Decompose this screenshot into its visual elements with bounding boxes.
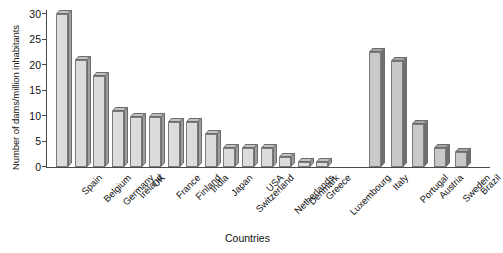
bar-netherlands <box>261 148 273 167</box>
bar-front-face <box>242 148 254 167</box>
bar-front-face <box>149 117 161 167</box>
bar-ireland <box>112 111 124 167</box>
bar-front-face <box>298 162 310 167</box>
bar-front-face <box>186 122 198 167</box>
bar-side-face <box>124 106 128 167</box>
bar-india <box>186 122 198 167</box>
y-tick-label: 20 <box>29 59 41 71</box>
y-tick-label: 25 <box>29 33 41 45</box>
bar-front-face <box>205 134 217 167</box>
bar-front-face <box>369 52 381 167</box>
plot-area: 051015202530 <box>46 10 490 168</box>
bar-side-face <box>87 55 91 167</box>
bar-side-face <box>424 119 428 167</box>
bar-front-face <box>112 111 124 167</box>
bar-front-face <box>75 60 87 167</box>
y-tick-label: 15 <box>29 84 41 96</box>
bar-finland <box>168 122 180 167</box>
bar-side-face <box>403 57 407 167</box>
bar-front-face <box>434 148 446 167</box>
bar-usa <box>242 148 254 167</box>
bar-belgium <box>75 60 87 167</box>
bars-layer <box>46 10 490 168</box>
bar-side-face <box>161 113 165 167</box>
bar-austria <box>412 124 424 167</box>
bar-side-face <box>105 72 109 167</box>
bar-germany <box>93 76 105 167</box>
bar-side-face <box>198 118 202 167</box>
bar-denmark <box>279 157 291 167</box>
x-axis-title: Countries <box>0 232 495 244</box>
x-label-japan: Japan <box>228 172 254 198</box>
bar-side-face <box>180 118 184 167</box>
bar-front-face <box>130 117 142 167</box>
y-tick-label: 5 <box>35 135 41 147</box>
bar-greece <box>298 162 310 167</box>
bar-spain <box>56 14 68 167</box>
bar-switzerland <box>223 148 235 167</box>
bar-front-face <box>455 152 467 167</box>
bar-front-face <box>93 76 105 167</box>
bar-france <box>149 117 161 167</box>
bar-front-face <box>412 124 424 167</box>
bar-front-face <box>316 162 328 167</box>
bar-front-face <box>261 148 273 167</box>
x-label-spain: Spain <box>79 172 104 197</box>
x-label-luxembourg: Luxembourg <box>348 172 393 217</box>
x-label-italy: Italy <box>390 172 410 192</box>
y-tick-label: 30 <box>29 8 41 20</box>
bar-front-face <box>168 122 180 167</box>
bar-brazil <box>455 152 467 167</box>
bar-side-face <box>68 10 72 167</box>
y-tick-label: 10 <box>29 110 41 122</box>
bar-side-face <box>381 48 385 167</box>
bar-luxembourg <box>316 162 328 167</box>
bar-japan <box>205 134 217 167</box>
bar-front-face <box>279 157 291 167</box>
bar-front-face <box>223 148 235 167</box>
y-axis-title: Number of dams/million inhabitants <box>10 13 21 183</box>
bar-side-face <box>217 129 221 167</box>
bar-front-face <box>56 14 68 167</box>
y-tick-label: 0 <box>35 161 41 173</box>
bar-uk <box>130 117 142 167</box>
bar-front-face <box>391 61 403 167</box>
bar-sweden <box>434 148 446 167</box>
bar-side-face <box>142 113 146 167</box>
bar-italy <box>369 52 381 167</box>
bar-portugal <box>391 61 403 167</box>
